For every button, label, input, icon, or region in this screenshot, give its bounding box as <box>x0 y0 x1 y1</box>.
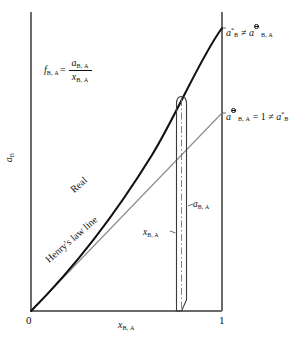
x-label-leader <box>170 231 176 233</box>
activity-diagram-figure: fB, A= aB, A xB, A a*B ≠ aB, A aB, A = 1… <box>0 0 306 342</box>
real-endpoint-annotation: a*B ≠ aB, A <box>226 24 273 39</box>
activity-value-label: aB, A <box>193 200 209 211</box>
mole-fraction-value-label: xB, A <box>143 228 159 239</box>
standard-state-icon <box>231 108 237 114</box>
x-axis-tick-min: 0 <box>26 315 32 326</box>
standard-state-icon <box>254 24 260 30</box>
formula-denominator: xB, A <box>69 71 92 83</box>
formula-fraction: aB, A xB, A <box>69 58 92 83</box>
x-axis-tick-max: 1 <box>219 315 225 326</box>
x-axis-label: xB, A <box>118 320 135 331</box>
formula-lhs: fB, A <box>44 64 59 75</box>
formula-numerator: aB, A <box>69 58 92 71</box>
y-axis-label: aB <box>4 153 15 162</box>
fugacity-coefficient-formula: fB, A= aB, A xB, A <box>44 58 92 83</box>
plot-canvas <box>0 0 306 342</box>
henry-endpoint-annotation: aB, A = 1 ≠ a*B <box>226 108 289 123</box>
formula-equals: = <box>60 64 66 75</box>
